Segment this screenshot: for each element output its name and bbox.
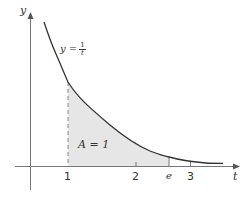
tick-label-2: 2 [132, 170, 139, 183]
curve-label: y =1t [60, 42, 86, 57]
shaded-area-region [68, 82, 169, 166]
plot-canvas [0, 0, 252, 199]
tick-label-e: e [166, 170, 172, 181]
tick-label-3: 3 [187, 170, 194, 183]
y-axis-arrow-icon [28, 12, 34, 19]
y-axis-label: y [20, 4, 26, 17]
x-axis-arrow-icon [233, 164, 240, 170]
curve-label-fraction: 1t [79, 42, 85, 57]
area-label: A = 1 [78, 138, 109, 151]
curve-label-lhs: y = [60, 43, 77, 54]
fraction-denominator: t [79, 50, 85, 57]
area-under-hyperbola-figure: y t y =1t A = 1 1 2 e 3 [0, 0, 252, 199]
tick-label-1: 1 [64, 170, 71, 183]
x-axis-label: t [233, 170, 237, 183]
